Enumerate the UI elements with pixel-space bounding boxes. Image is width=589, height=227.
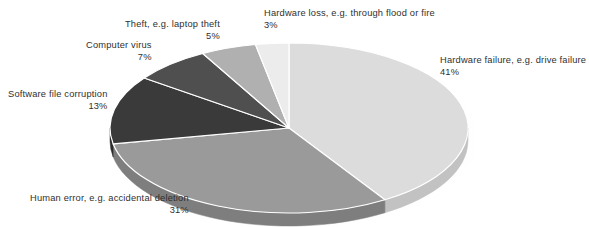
slice-label-value: 13% (8, 101, 108, 113)
slice-label-name: Theft, e.g. laptop theft (125, 19, 220, 31)
slice-label-name: Computer virus (86, 40, 152, 52)
slice-label-name: Human error, e.g. accidental deletion (30, 193, 189, 205)
slice-label-name: Hardware failure, e.g. drive failure (440, 55, 586, 67)
pie-chart: Hardware loss, e.g. through flood or fir… (0, 0, 589, 227)
slice-label-hardware-loss: Hardware loss, e.g. through flood or fir… (264, 8, 435, 31)
slice-label-value: 3% (264, 20, 435, 32)
slice-label-computer-virus: Computer virus 7% (86, 40, 152, 63)
slice-label-software-file-corruption: Software file corruption 13% (8, 89, 108, 112)
slice-label-name: Hardware loss, e.g. through flood or fir… (264, 8, 435, 20)
slice-label-value: 31% (30, 205, 189, 217)
slice-label-human-error: Human error, e.g. accidental deletion 31… (30, 193, 189, 216)
slice-label-value: 7% (86, 52, 152, 64)
pie-slices (110, 43, 468, 213)
slice-label-hardware-failure: Hardware failure, e.g. drive failure 41% (440, 55, 586, 78)
slice-label-value: 41% (440, 67, 586, 79)
slice-label-name: Software file corruption (8, 89, 108, 101)
slice-label-theft: Theft, e.g. laptop theft 5% (125, 19, 220, 42)
